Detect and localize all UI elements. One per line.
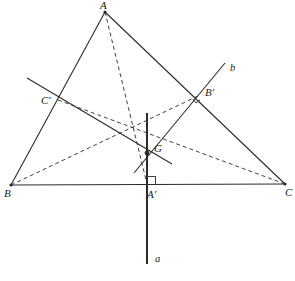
centroid-dot <box>145 151 150 156</box>
label-point-b-prime: B' <box>205 87 214 98</box>
label-point-b: B <box>4 188 11 199</box>
geometry-canvas <box>0 0 295 281</box>
label-line-b: b <box>230 63 235 74</box>
geometry-figure: A B C A' B' C' G a b <box>0 0 295 281</box>
median-b-bprime <box>11 95 200 185</box>
side-ac <box>105 12 285 184</box>
side-ab <box>11 12 105 185</box>
right-angle-at-aprime-icon <box>147 176 155 184</box>
median-a-aprime <box>105 12 147 184</box>
label-point-c: C <box>285 187 292 198</box>
label-point-c-prime: C' <box>41 95 51 106</box>
label-line-a: a <box>155 254 160 265</box>
label-point-a-prime: A' <box>147 189 156 200</box>
label-point-g: G <box>154 143 162 154</box>
label-point-a: A <box>100 0 107 11</box>
line-through-cprime-and-g <box>27 78 172 164</box>
side-bc <box>11 184 285 185</box>
median-c-cprime <box>58 100 285 184</box>
